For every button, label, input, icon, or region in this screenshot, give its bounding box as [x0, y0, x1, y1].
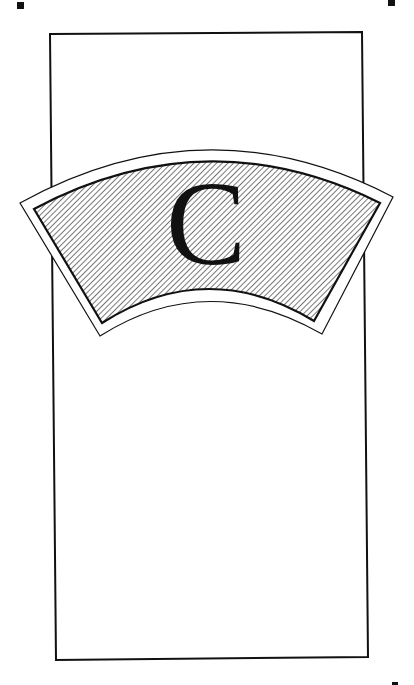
registration-mark-top-left — [17, 2, 24, 9]
registration-mark-top-right — [388, 0, 395, 6]
section-letter: C — [166, 157, 246, 290]
frame-rectangle — [50, 32, 368, 660]
tab-divider-graphic: C — [0, 0, 414, 685]
